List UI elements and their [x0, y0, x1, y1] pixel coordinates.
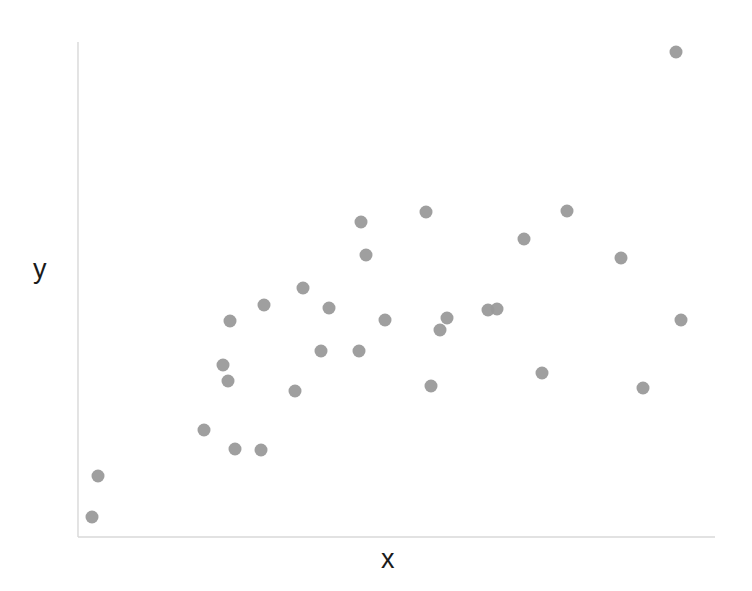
data-point	[217, 359, 230, 372]
data-point	[258, 299, 271, 312]
data-point	[670, 46, 683, 59]
data-point	[297, 282, 310, 295]
data-point	[355, 216, 368, 229]
data-point	[491, 303, 504, 316]
data-markers-group	[86, 46, 688, 524]
data-point	[360, 249, 373, 262]
scatter-plot-figure: y x	[0, 0, 752, 591]
data-point	[536, 367, 549, 380]
data-point	[289, 385, 302, 398]
data-point	[425, 380, 438, 393]
data-point	[637, 382, 650, 395]
axes-group	[78, 42, 715, 537]
data-point	[198, 424, 211, 437]
data-point	[675, 314, 688, 327]
y-axis-label: y	[33, 256, 47, 283]
data-point	[561, 205, 574, 218]
data-point	[86, 511, 99, 524]
data-point	[323, 302, 336, 315]
data-point	[92, 470, 105, 483]
data-point	[420, 206, 433, 219]
plot-canvas	[0, 0, 752, 591]
data-point	[615, 252, 628, 265]
data-point	[434, 324, 447, 337]
data-point	[224, 315, 237, 328]
data-point	[518, 233, 531, 246]
data-point	[379, 314, 392, 327]
data-point	[315, 345, 328, 358]
data-point	[229, 443, 242, 456]
data-point	[255, 444, 268, 457]
data-point	[222, 375, 235, 388]
data-point	[353, 345, 366, 358]
x-axis-label: x	[381, 546, 395, 573]
data-point	[441, 312, 454, 325]
